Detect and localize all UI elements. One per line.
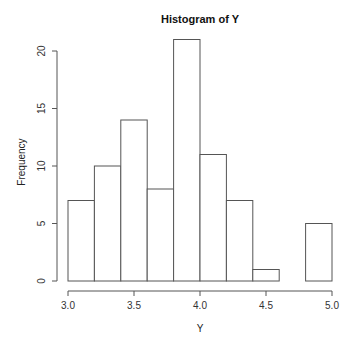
x-tick-label: 3.5 xyxy=(127,300,141,311)
histogram-bar xyxy=(68,201,94,282)
y-tick-label: 10 xyxy=(36,160,47,172)
histogram-bar xyxy=(94,166,120,281)
histogram-bar xyxy=(226,201,252,282)
y-tick-label: 0 xyxy=(36,278,47,284)
y-tick-label: 5 xyxy=(36,220,47,226)
histogram-bar xyxy=(147,189,173,281)
y-tick-label: 15 xyxy=(36,103,47,115)
y-tick-label: 20 xyxy=(36,45,47,57)
x-tick-label: 4.0 xyxy=(193,300,207,311)
chart-title: Histogram of Y xyxy=(161,13,240,25)
histogram-bar xyxy=(200,155,226,282)
x-axis-label: Y xyxy=(197,323,204,334)
y-axis: 05101520 xyxy=(36,45,57,284)
x-tick-label: 4.5 xyxy=(259,300,273,311)
y-axis-label: Frequency xyxy=(16,138,27,185)
x-axis: 3.03.54.04.55.0 xyxy=(61,291,339,311)
histogram-plot: Histogram of Y 05101520 3.03.54.04.55.0 … xyxy=(0,0,354,349)
histogram-bars xyxy=(68,40,332,282)
x-tick-label: 5.0 xyxy=(325,300,339,311)
histogram-bar xyxy=(253,270,279,282)
histogram-bar xyxy=(306,224,332,282)
histogram-bar xyxy=(174,40,200,282)
histogram-bar xyxy=(121,120,147,281)
x-tick-label: 3.0 xyxy=(61,300,75,311)
